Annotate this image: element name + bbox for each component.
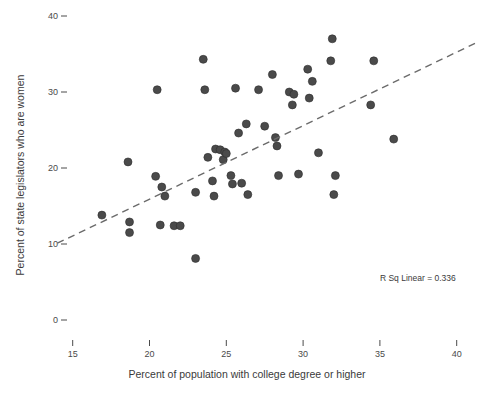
x-tick-label: 15 <box>68 349 78 359</box>
data-point <box>275 172 283 180</box>
x-axis-title: Percent of population with college degre… <box>129 368 366 380</box>
y-axis-title: Percent of state legislators who are wom… <box>14 74 26 275</box>
x-tick-label: 40 <box>452 349 462 359</box>
y-tick-label: 10 <box>48 239 58 249</box>
scatter-plot-figure: 010203040 152025303540 Percent of popula… <box>0 0 495 395</box>
data-point <box>227 172 235 180</box>
x-tick-label: 25 <box>221 349 231 359</box>
data-point <box>273 142 281 150</box>
data-point <box>261 122 269 130</box>
data-point <box>124 158 132 166</box>
x-tick-label: 20 <box>144 349 154 359</box>
data-point <box>238 179 246 187</box>
y-tick-label: 30 <box>48 87 58 97</box>
data-point <box>152 172 160 180</box>
r-squared-annotation: R Sq Linear = 0.336 <box>380 273 456 283</box>
data-point <box>176 222 184 230</box>
data-point <box>126 218 134 226</box>
data-point <box>192 188 200 196</box>
y-tick-label: 40 <box>48 11 58 21</box>
data-point <box>242 120 250 128</box>
data-point <box>98 211 106 219</box>
data-point <box>367 101 375 109</box>
data-point <box>331 172 339 180</box>
data-point <box>235 129 243 137</box>
data-point <box>305 94 313 102</box>
data-point <box>390 135 398 143</box>
data-point <box>288 101 296 109</box>
data-point <box>153 86 161 94</box>
data-point <box>208 177 216 185</box>
data-point <box>199 55 207 63</box>
data-point <box>201 86 209 94</box>
data-point <box>290 90 298 98</box>
data-point <box>244 191 252 199</box>
data-point <box>192 254 200 262</box>
chart-canvas: 010203040 152025303540 Percent of popula… <box>0 0 495 395</box>
data-point <box>158 183 166 191</box>
y-tick-label: 20 <box>48 163 58 173</box>
data-point <box>228 180 236 188</box>
data-point <box>370 57 378 65</box>
data-point <box>126 229 134 237</box>
data-point <box>204 153 212 161</box>
data-point <box>210 192 218 200</box>
data-point <box>232 84 240 92</box>
data-point <box>268 71 276 79</box>
data-point <box>314 149 322 157</box>
data-point <box>255 86 263 94</box>
data-point <box>327 57 335 65</box>
data-point <box>156 221 164 229</box>
data-point <box>294 170 302 178</box>
data-point <box>304 65 312 73</box>
data-point <box>308 77 316 85</box>
data-point <box>222 150 230 158</box>
y-tick-label: 0 <box>53 315 58 325</box>
data-point <box>330 191 338 199</box>
x-tick-label: 30 <box>298 349 308 359</box>
x-tick-label: 35 <box>375 349 385 359</box>
data-point <box>161 192 169 200</box>
data-point <box>328 35 336 43</box>
